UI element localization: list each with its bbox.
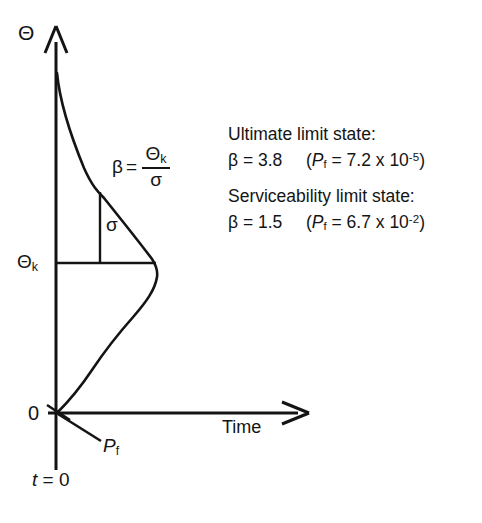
start-time-label: t = 0 <box>32 470 70 489</box>
pf-subscript: f <box>116 444 119 458</box>
x-axis-label: Time <box>222 418 261 436</box>
theta-k-base: Θ <box>17 251 32 272</box>
limit-state-beta: β = 3.8 <box>228 150 306 171</box>
numerator-subscript: k <box>160 152 166 166</box>
limit-state-group-serviceability: Serviceability limit state: β = 1.5 (Pf … <box>228 186 478 233</box>
diagram-canvas <box>0 0 482 523</box>
pf-mantissa: 7.2 x 10 <box>347 150 409 170</box>
limit-state-values: β = 3.8 (Pf = 7.2 x 10-5) <box>228 150 478 171</box>
limit-state-title: Serviceability limit state: <box>228 186 478 207</box>
pf-symbol-base: P <box>312 150 324 170</box>
limit-state-values: β = 1.5 (Pf = 6.7 x 10-2) <box>228 212 478 233</box>
beta-fraction-numerator: Θk <box>143 144 170 167</box>
y-axis-label: Θ <box>18 22 34 43</box>
pf-equals: = <box>327 212 347 232</box>
origin-label: 0 <box>28 403 39 423</box>
pf-symbol-base: P <box>312 212 324 232</box>
pf-callout-label: Pf <box>103 436 119 457</box>
sigma-label: σ <box>106 215 118 234</box>
beta-fraction: Θk σ <box>142 144 170 189</box>
pf-equals: = <box>327 150 347 170</box>
beta-equation: β = Θk σ <box>112 144 170 189</box>
pf-symbol: P <box>103 435 116 456</box>
pf-exponent: -5 <box>409 151 419 163</box>
figure-root: Θ Θk 0 Time Pf t = 0 β = Θk σ σ Ultimate… <box>0 0 482 523</box>
pdf-curve <box>57 73 157 413</box>
pf-mantissa: 6.7 x 10 <box>347 212 409 232</box>
limit-state-group-ultimate: Ultimate limit state: β = 3.8 (Pf = 7.2 … <box>228 124 478 171</box>
beta-fraction-denominator: σ <box>147 169 165 189</box>
pf-leader-line <box>58 414 101 441</box>
limit-state-title: Ultimate limit state: <box>228 124 478 145</box>
pf-exponent: -2 <box>409 213 419 225</box>
pf-symbol-inline: Pf <box>312 150 327 170</box>
theta-k-subscript: k <box>32 260 38 274</box>
numerator-base: Θ <box>146 143 161 164</box>
theta-k-axis-label: Θk <box>17 252 38 273</box>
limit-states-block: Ultimate limit state: β = 3.8 (Pf = 7.2 … <box>228 124 478 233</box>
beta-symbol: β <box>112 157 123 176</box>
pf-close-paren: ) <box>419 150 425 170</box>
start-time-value: = 0 <box>37 469 69 490</box>
beta-equals-sign: = <box>126 157 137 176</box>
pf-symbol-inline: Pf <box>312 212 327 232</box>
pf-close-paren: ) <box>419 212 425 232</box>
limit-state-pf: (Pf = 7.2 x 10-5) <box>306 150 425 171</box>
limit-state-beta: β = 1.5 <box>228 212 306 233</box>
limit-state-pf: (Pf = 6.7 x 10-2) <box>306 212 425 233</box>
